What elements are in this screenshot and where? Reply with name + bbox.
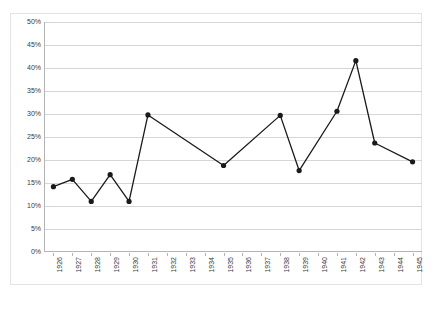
- data-point-marker: [70, 177, 75, 182]
- y-tick-label: 50%: [1, 18, 41, 26]
- y-tick-label: 25%: [1, 133, 41, 141]
- x-tick-mark: [261, 253, 262, 256]
- x-tick-label: 1931: [151, 257, 159, 273]
- y-tick-label: 40%: [1, 64, 41, 72]
- y-tick-label: 30%: [1, 110, 41, 118]
- x-tick-label: 1935: [227, 257, 235, 273]
- x-tick-mark: [394, 253, 395, 256]
- data-point-marker: [221, 163, 226, 168]
- x-tick-label: 1938: [283, 257, 291, 273]
- x-tick-label: 1929: [113, 257, 121, 273]
- x-tick-label: 1927: [75, 257, 83, 273]
- data-point-marker: [372, 140, 377, 145]
- series-line: [53, 61, 412, 202]
- data-point-marker: [353, 58, 358, 63]
- x-tick-label: 1944: [397, 257, 405, 273]
- data-point-marker: [410, 159, 415, 164]
- y-tick-label: 10%: [1, 202, 41, 210]
- x-tick-mark: [224, 253, 225, 256]
- x-tick-label: 1940: [321, 257, 329, 273]
- x-tick-mark: [205, 253, 206, 256]
- line-series: [44, 22, 422, 252]
- x-tick-mark: [167, 253, 168, 256]
- x-tick-label: 1939: [302, 257, 310, 273]
- x-tick-mark: [148, 253, 149, 256]
- y-tick-label: 5%: [1, 225, 41, 233]
- data-point-marker: [297, 168, 302, 173]
- x-tick-mark: [299, 253, 300, 256]
- data-point-marker: [51, 184, 56, 189]
- y-tick-label: 35%: [1, 87, 41, 95]
- x-axis: 1926192719281929193019311932193319341935…: [44, 253, 422, 293]
- x-tick-mark: [318, 253, 319, 256]
- x-tick-label: 1942: [359, 257, 367, 273]
- x-tick-mark: [53, 253, 54, 256]
- y-tick-label: 0%: [1, 248, 41, 256]
- data-point-marker: [126, 199, 131, 204]
- x-tick-mark: [280, 253, 281, 256]
- y-tick-label: 45%: [1, 41, 41, 49]
- data-point-marker: [108, 172, 113, 177]
- x-tick-mark: [91, 253, 92, 256]
- x-tick-label: 1945: [416, 257, 424, 273]
- x-tick-label: 1941: [340, 257, 348, 273]
- x-tick-mark: [337, 253, 338, 256]
- x-tick-label: 1943: [378, 257, 386, 273]
- data-point-marker: [145, 112, 150, 117]
- data-point-marker: [334, 109, 339, 114]
- x-tick-mark: [242, 253, 243, 256]
- chart-container: 50%45%40%35%30%25%20%15%10%5%0% 19261927…: [0, 0, 442, 314]
- x-tick-label: 1936: [245, 257, 253, 273]
- x-tick-mark: [72, 253, 73, 256]
- x-tick-mark: [129, 253, 130, 256]
- x-tick-label: 1928: [94, 257, 102, 273]
- y-tick-label: 20%: [1, 156, 41, 164]
- x-tick-mark: [110, 253, 111, 256]
- data-point-marker: [89, 199, 94, 204]
- x-tick-mark: [356, 253, 357, 256]
- y-tick-label: 15%: [1, 179, 41, 187]
- x-tick-label: 1934: [208, 257, 216, 273]
- x-tick-label: 1930: [132, 257, 140, 273]
- x-tick-label: 1937: [264, 257, 272, 273]
- x-tick-label: 1933: [189, 257, 197, 273]
- x-tick-mark: [413, 253, 414, 256]
- x-tick-label: 1926: [56, 257, 64, 273]
- x-tick-label: 1932: [170, 257, 178, 273]
- y-axis: 50%45%40%35%30%25%20%15%10%5%0%: [0, 22, 41, 252]
- x-tick-mark: [375, 253, 376, 256]
- data-point-marker: [278, 113, 283, 118]
- x-tick-mark: [186, 253, 187, 256]
